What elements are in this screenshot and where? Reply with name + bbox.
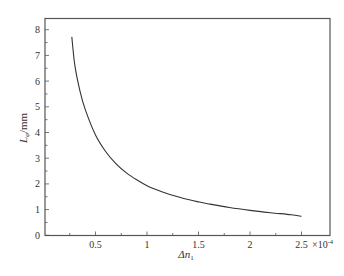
y-axis-tick-labels: 012345678 xyxy=(35,24,40,241)
y-tick-label: 0 xyxy=(35,230,40,241)
y-axis-label-unit: /mm xyxy=(17,112,29,133)
x-exponent-power: -4 xyxy=(328,238,334,245)
y-axis-label-main: L xyxy=(17,137,29,144)
y-tick-label: 3 xyxy=(35,153,40,164)
x-tick-label: 1 xyxy=(145,239,150,250)
y-tick-label: 2 xyxy=(35,178,40,189)
y-tick-label: 1 xyxy=(35,204,40,215)
y-axis-label: Lφ/mm xyxy=(17,112,31,144)
chart: 012345678 0.511.522.5 Lφ/mm Δn1 ×10-4 xyxy=(0,0,344,276)
y-tick-label: 7 xyxy=(35,50,40,61)
x-axis-label: Δn1 xyxy=(177,248,194,262)
x-axis-ticks xyxy=(70,232,302,236)
y-tick-label: 5 xyxy=(35,101,40,112)
y-tick-label: 6 xyxy=(35,76,40,87)
x-tick-label: 1.5 xyxy=(192,239,205,250)
x-exponent-base: ×10 xyxy=(312,239,328,250)
data-line xyxy=(72,37,302,216)
x-axis-label-subscript: 1 xyxy=(190,254,194,262)
x-tick-label: 0.5 xyxy=(89,239,102,250)
x-axis-tick-labels: 0.511.522.5 xyxy=(89,239,308,250)
x-axis-label-main: Δn xyxy=(177,248,190,260)
x-tick-label: 2.5 xyxy=(295,239,308,250)
plot-frame xyxy=(45,19,330,236)
y-tick-label: 8 xyxy=(35,24,40,35)
y-tick-label: 4 xyxy=(35,127,40,138)
x-axis-exponent: ×10-4 xyxy=(312,238,334,250)
x-tick-label: 2 xyxy=(248,239,253,250)
